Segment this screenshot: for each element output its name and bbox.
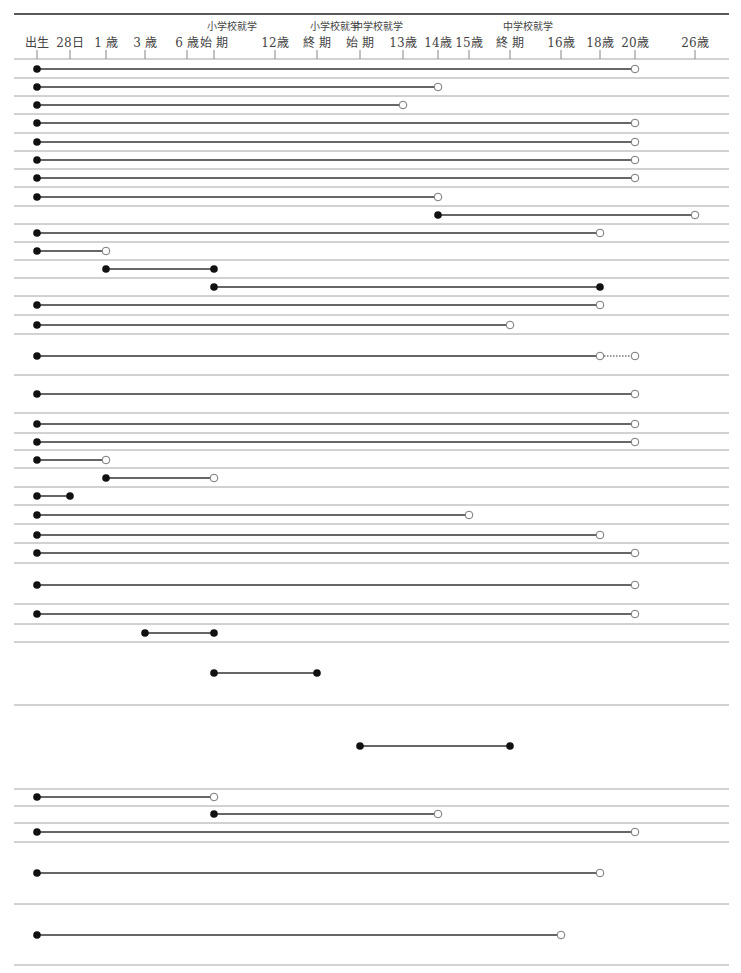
filled-endpoint-icon <box>33 247 41 255</box>
filled-endpoint-icon <box>33 511 41 519</box>
filled-endpoint-icon <box>33 828 41 836</box>
open-endpoint-icon <box>631 156 639 164</box>
filled-endpoint-icon <box>596 283 604 291</box>
open-endpoint-icon <box>631 138 639 146</box>
open-endpoint-icon <box>399 101 407 109</box>
filled-endpoint-icon <box>102 265 110 273</box>
filled-endpoint-icon <box>33 931 41 939</box>
filled-endpoint-icon <box>33 174 41 182</box>
filled-endpoint-icon <box>102 474 110 482</box>
filled-endpoint-icon <box>33 156 41 164</box>
open-endpoint-icon <box>434 193 442 201</box>
filled-endpoint-icon <box>210 283 218 291</box>
filled-endpoint-icon <box>33 492 41 500</box>
filled-endpoint-icon <box>506 742 514 750</box>
filled-endpoint-icon <box>210 265 218 273</box>
filled-endpoint-icon <box>33 119 41 127</box>
open-endpoint-icon <box>631 438 639 446</box>
filled-endpoint-icon <box>356 742 364 750</box>
filled-endpoint-icon <box>33 456 41 464</box>
filled-endpoint-icon <box>141 629 149 637</box>
filled-endpoint-icon <box>33 549 41 557</box>
filled-endpoint-icon <box>33 438 41 446</box>
filled-endpoint-icon <box>33 352 41 360</box>
filled-endpoint-icon <box>33 390 41 398</box>
filled-endpoint-icon <box>33 229 41 237</box>
open-endpoint-icon <box>631 610 639 618</box>
open-endpoint-icon <box>631 352 639 360</box>
filled-endpoint-icon <box>210 669 218 677</box>
filled-endpoint-icon <box>33 420 41 428</box>
open-endpoint-icon <box>596 229 604 237</box>
filled-endpoint-icon <box>210 629 218 637</box>
open-endpoint-icon <box>691 211 699 219</box>
open-endpoint-icon <box>102 247 110 255</box>
open-endpoint-icon <box>596 531 604 539</box>
filled-endpoint-icon <box>33 793 41 801</box>
open-endpoint-icon <box>596 352 604 360</box>
timeline-plot <box>0 0 741 973</box>
open-endpoint-icon <box>210 793 218 801</box>
filled-endpoint-icon <box>33 193 41 201</box>
filled-endpoint-icon <box>33 531 41 539</box>
open-endpoint-icon <box>596 301 604 309</box>
open-endpoint-icon <box>557 931 565 939</box>
filled-endpoint-icon <box>33 869 41 877</box>
filled-endpoint-icon <box>313 669 321 677</box>
filled-endpoint-icon <box>33 581 41 589</box>
open-endpoint-icon <box>631 828 639 836</box>
open-endpoint-icon <box>434 810 442 818</box>
open-endpoint-icon <box>631 581 639 589</box>
open-endpoint-icon <box>596 869 604 877</box>
filled-endpoint-icon <box>33 65 41 73</box>
filled-endpoint-icon <box>33 301 41 309</box>
open-endpoint-icon <box>434 83 442 91</box>
filled-endpoint-icon <box>33 83 41 91</box>
eligibility-timeline-chart: 出生28日1 歳3 歳6 歳始 期小学校就学12歳終 期小学校就学始 期中学校就… <box>0 0 741 973</box>
open-endpoint-icon <box>631 390 639 398</box>
filled-endpoint-icon <box>33 321 41 329</box>
open-endpoint-icon <box>631 549 639 557</box>
open-endpoint-icon <box>506 321 514 329</box>
filled-endpoint-icon <box>33 138 41 146</box>
open-endpoint-icon <box>631 119 639 127</box>
open-endpoint-icon <box>631 420 639 428</box>
filled-endpoint-icon <box>434 211 442 219</box>
filled-endpoint-icon <box>66 492 74 500</box>
open-endpoint-icon <box>102 456 110 464</box>
filled-endpoint-icon <box>33 101 41 109</box>
open-endpoint-icon <box>631 174 639 182</box>
filled-endpoint-icon <box>33 610 41 618</box>
open-endpoint-icon <box>465 511 473 519</box>
filled-endpoint-icon <box>210 810 218 818</box>
open-endpoint-icon <box>631 65 639 73</box>
open-endpoint-icon <box>210 474 218 482</box>
